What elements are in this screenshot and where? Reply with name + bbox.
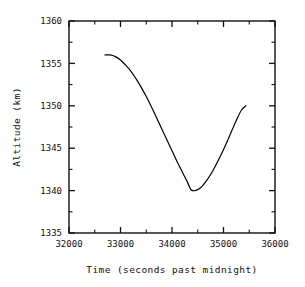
y-tick-label: 1340 bbox=[40, 186, 62, 196]
x-tick-label: 35000 bbox=[210, 239, 237, 249]
x-tick-label: 36000 bbox=[261, 239, 288, 249]
y-tick-label: 1345 bbox=[40, 143, 62, 153]
x-tick-label: 32000 bbox=[55, 239, 82, 249]
y-tick-label: 1360 bbox=[40, 16, 62, 26]
y-tick-label: 1355 bbox=[40, 59, 62, 69]
y-axis-title: Altitude (km) bbox=[11, 87, 22, 167]
x-tick-label: 33000 bbox=[107, 239, 134, 249]
chart-canvas: 3200033000340003500036000 13351340134513… bbox=[0, 0, 305, 287]
altitude-vs-time-chart: 3200033000340003500036000 13351340134513… bbox=[0, 0, 305, 287]
x-axis-title: Time (seconds past midnight) bbox=[86, 264, 257, 275]
y-tick-label: 1335 bbox=[40, 228, 62, 238]
y-tick-label: 1350 bbox=[40, 101, 62, 111]
x-tick-label: 34000 bbox=[158, 239, 185, 249]
